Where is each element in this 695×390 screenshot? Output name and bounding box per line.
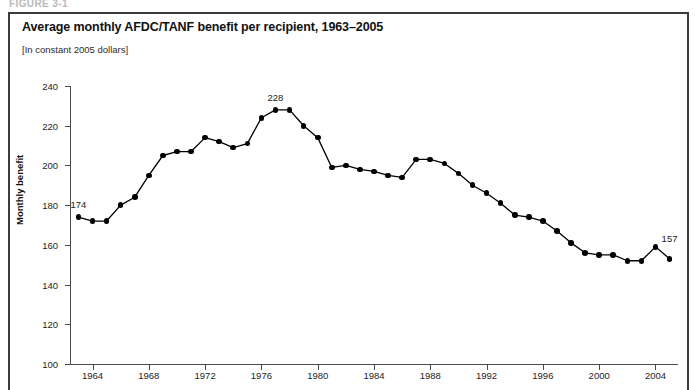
y-tick-label: 100 xyxy=(22,359,58,370)
data-point xyxy=(399,175,405,181)
x-tick-label: 2004 xyxy=(645,370,666,381)
x-tick-mark xyxy=(543,365,544,370)
data-point xyxy=(568,240,574,246)
y-tick-label: 240 xyxy=(22,81,58,92)
data-point xyxy=(146,173,152,179)
data-point xyxy=(329,165,335,171)
x-tick-label: 2000 xyxy=(589,370,610,381)
y-tick-label: 120 xyxy=(22,319,58,330)
series-line xyxy=(70,86,678,364)
x-tick-label: 1976 xyxy=(251,370,272,381)
data-point xyxy=(540,218,546,224)
x-tick-mark xyxy=(430,365,431,370)
data-point xyxy=(357,167,363,173)
data-point xyxy=(582,250,588,256)
data-point xyxy=(625,258,631,264)
x-tick-label: 1968 xyxy=(138,370,159,381)
x-tick-mark xyxy=(374,365,375,370)
data-point-label: 157 xyxy=(662,233,678,244)
data-point xyxy=(667,256,673,262)
data-point xyxy=(132,194,138,200)
data-point xyxy=(188,149,194,155)
data-point xyxy=(639,258,645,264)
y-tick-label: 160 xyxy=(22,239,58,250)
data-point xyxy=(315,135,321,141)
data-point xyxy=(287,107,293,113)
frame-right-rule xyxy=(687,12,689,390)
data-point xyxy=(371,169,377,175)
data-point xyxy=(385,173,391,179)
x-tick-label: 1980 xyxy=(307,370,328,381)
x-tick-label: 1972 xyxy=(195,370,216,381)
data-point xyxy=(343,163,349,169)
x-tick-mark xyxy=(599,365,600,370)
y-tick-label: 140 xyxy=(22,279,58,290)
data-point-label: 174 xyxy=(71,199,87,210)
data-point-label: 228 xyxy=(268,92,284,103)
figure-number-label: FIGURE 3-1 xyxy=(9,0,68,9)
x-tick-label: 1996 xyxy=(532,370,553,381)
data-point xyxy=(610,252,616,258)
data-point xyxy=(76,214,82,220)
data-point xyxy=(259,115,265,121)
figure-container: FIGURE 3-1 Average monthly AFDC/TANF ben… xyxy=(0,0,695,390)
x-tick-label: 1964 xyxy=(82,370,103,381)
y-tick-label: 180 xyxy=(22,200,58,211)
data-point xyxy=(653,244,659,250)
data-point xyxy=(301,123,307,129)
y-tick-label: 220 xyxy=(22,120,58,131)
data-point xyxy=(526,214,532,220)
frame-top-rule xyxy=(8,12,689,14)
x-tick-label: 1992 xyxy=(476,370,497,381)
data-point xyxy=(512,212,518,218)
data-point xyxy=(90,218,96,224)
x-tick-mark xyxy=(487,365,488,370)
x-tick-mark xyxy=(318,365,319,370)
data-point xyxy=(554,228,560,234)
data-point xyxy=(160,153,166,159)
x-tick-label: 1988 xyxy=(420,370,441,381)
data-point xyxy=(174,149,180,155)
y-tick-label: 200 xyxy=(22,160,58,171)
x-tick-mark xyxy=(205,365,206,370)
y-tick-mark xyxy=(65,364,70,365)
x-tick-label: 1984 xyxy=(363,370,384,381)
x-tick-mark xyxy=(261,365,262,370)
x-tick-mark xyxy=(655,365,656,370)
chart-title: Average monthly AFDC/TANF benefit per re… xyxy=(22,20,383,34)
data-point xyxy=(596,252,602,258)
data-point xyxy=(273,107,279,113)
plot-area xyxy=(70,86,678,364)
x-tick-mark xyxy=(93,365,94,370)
frame-left-rule xyxy=(8,12,10,390)
chart-subtitle: [In constant 2005 dollars] xyxy=(22,44,128,55)
x-tick-mark xyxy=(149,365,150,370)
